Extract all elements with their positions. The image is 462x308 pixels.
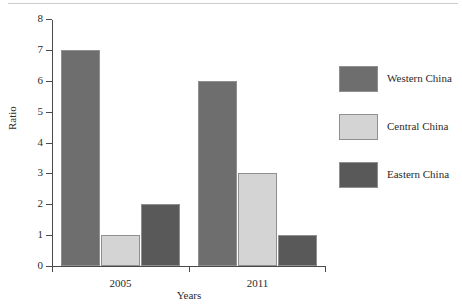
bar-central-china-2005	[101, 235, 140, 266]
y-axis-title: Ratio	[6, 106, 19, 130]
x-tick-mark	[325, 267, 326, 272]
y-tick-2: 2	[52, 204, 53, 205]
bar-western-china-2011	[198, 81, 237, 266]
y-tick-label: 1	[38, 227, 44, 242]
y-tick-label: 8	[38, 11, 44, 26]
legend-swatch	[339, 162, 378, 188]
y-tick-label: 3	[38, 165, 44, 180]
y-tick-6: 6	[52, 81, 53, 82]
y-tick-label: 6	[38, 73, 44, 88]
bar-central-china-2011	[238, 173, 277, 266]
x-tick-label-2011: 2011	[247, 276, 269, 290]
y-tick-label: 7	[38, 42, 44, 57]
y-tick-4: 4	[52, 143, 53, 144]
y-tick-mark	[46, 50, 52, 51]
y-tick-7: 7	[52, 50, 53, 51]
y-tick-mark	[46, 173, 52, 174]
legend-label: Western China	[387, 71, 452, 86]
y-tick-label: 0	[38, 258, 44, 273]
legend-label: Central China	[387, 119, 448, 134]
y-tick-5: 5	[52, 112, 53, 113]
bar-eastern-china-2011	[278, 235, 317, 266]
y-tick-label: 2	[38, 196, 44, 211]
x-tick-mark	[52, 267, 53, 272]
bar-western-china-2005	[61, 50, 100, 266]
x-axis-title: Years	[52, 288, 326, 302]
y-tick-8: 8	[52, 19, 53, 20]
y-tick-label: 4	[38, 135, 44, 150]
y-tick-1: 1	[52, 235, 53, 236]
bar-chart-figure: Ratio Years 012345678 20052011 Western C…	[0, 0, 462, 308]
x-tick-label-2005: 2005	[110, 276, 132, 290]
y-tick-mark	[46, 235, 52, 236]
y-tick-3: 3	[52, 173, 53, 174]
y-tick-mark	[46, 143, 52, 144]
y-tick-mark	[46, 19, 52, 20]
legend-swatch	[339, 114, 378, 140]
y-tick-mark	[46, 81, 52, 82]
figure-top-rule	[8, 3, 458, 4]
legend-label: Eastern China	[387, 167, 449, 182]
plot-area: 012345678 20052011	[52, 20, 326, 267]
y-tick-mark	[46, 204, 52, 205]
y-tick-label: 5	[38, 104, 44, 119]
bar-eastern-china-2005	[141, 204, 180, 266]
y-tick-mark	[46, 112, 52, 113]
legend-swatch	[339, 66, 378, 92]
x-tick-mark	[189, 267, 190, 272]
y-axis-line	[52, 20, 53, 267]
